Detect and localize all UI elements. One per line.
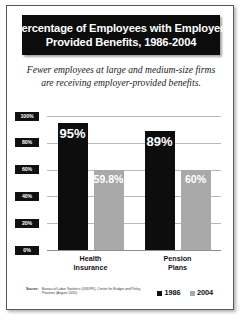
chart-subtitle-line-2: are receiving employer-provided benefits… (19, 77, 223, 90)
legend-item-1986: 1986 (157, 289, 181, 297)
bar-value-label: 60% (181, 173, 211, 185)
legend-swatch-icon-2004 (190, 291, 195, 296)
bar-1986-health-insurance: 95% (58, 123, 88, 250)
gridline (47, 116, 221, 117)
y-axis-tick-label: 20% (15, 219, 39, 228)
legend-label-2004: 2004 (197, 289, 213, 297)
x-axis-category-label: HealthInsurance (47, 254, 134, 272)
plot-area: 95%59.8%89%60% (47, 116, 221, 250)
bar-value-label: 95% (58, 126, 88, 141)
source-label: Source: (26, 287, 39, 291)
source-note: Source: Bureau of Labor Statistics (USDP… (26, 287, 144, 296)
y-axis-tick-label: 80% (15, 138, 39, 147)
bar-value-label: 89% (145, 134, 175, 149)
x-axis-category-label-line: Pension (134, 254, 221, 263)
y-axis-tick-label: 60% (15, 165, 39, 174)
bar-2004-pension-plans: 60% (181, 170, 211, 250)
chart-subtitle-line-1: Fewer employees at large and medium-size… (19, 64, 223, 77)
x-axis-category-label-line: Insurance (47, 263, 134, 272)
bar-chart: 95%59.8%89%60% 0%20%40%60%80%100%HealthI… (15, 110, 227, 256)
bar-1986-pension-plans: 89% (145, 131, 175, 250)
source-text: Bureau of Labor Statistics (USDPK), Cent… (42, 287, 144, 296)
x-axis-category-label-line: Health (47, 254, 134, 263)
x-axis-category-label: PensionPlans (134, 254, 221, 272)
bar-2004-health-insurance: 59.8% (94, 170, 124, 250)
axis-baseline (47, 250, 221, 251)
legend-item-2004: 2004 (190, 289, 214, 297)
x-axis-category-label-line: Plans (134, 263, 221, 272)
chart-title-line-2: Provided Benefits, 1986-2004 (46, 35, 197, 49)
y-axis-tick-label: 0% (15, 246, 39, 255)
legend-swatch-icon-1986 (157, 291, 162, 296)
figure-panel: Percentage of Employees with Employer- P… (6, 5, 234, 310)
y-axis-tick-label: 40% (15, 192, 39, 201)
chart-title-line-1: Percentage of Employees with Employer- (14, 21, 228, 35)
bar-value-label: 59.8% (94, 173, 124, 185)
chart-subtitle: Fewer employees at large and medium-size… (19, 64, 223, 89)
chart-title-box: Percentage of Employees with Employer- P… (22, 15, 220, 55)
y-axis-tick-label: 100% (15, 112, 39, 121)
legend-label-1986: 1986 (165, 289, 181, 297)
chart-legend: 1986 2004 (157, 289, 213, 297)
